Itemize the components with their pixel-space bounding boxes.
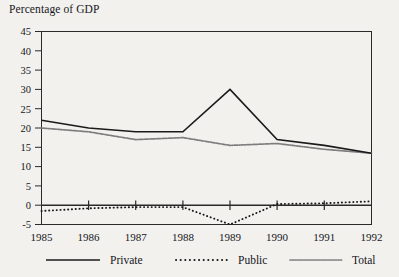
y-tick-label: 45 (21, 26, 32, 37)
x-tick-label: 1986 (78, 231, 101, 243)
chart-plot-area: 45 40 35 30 25 20 15 10 5 0 -5 (0, 0, 399, 277)
y-tick-label: 40 (21, 46, 32, 57)
legend-item-label: Public (238, 254, 267, 266)
x-tick-label: 1985 (31, 231, 54, 243)
y-tick-label: 10 (21, 161, 32, 172)
chart-svg: 45 40 35 30 25 20 15 10 5 0 -5 (0, 0, 399, 277)
y-tick-label: 25 (21, 104, 32, 115)
x-tick-label: 1987 (125, 231, 148, 243)
chart-page: Percentage of GDP 45 40 (0, 0, 399, 277)
series-line-private (42, 89, 372, 153)
legend-item-private[interactable]: Private (46, 254, 143, 266)
x-tick-label: 1991 (313, 231, 335, 243)
series-line-total (42, 128, 372, 153)
x-tick-label: 1990 (266, 231, 289, 243)
chart-legend: Private Public Total (46, 254, 375, 266)
y-tick-label: 20 (21, 123, 32, 134)
y-tick-label: 35 (21, 65, 32, 76)
x-tick-label: 1989 (219, 231, 242, 243)
x-tick-label: 1988 (172, 231, 195, 243)
y-tick-label: 15 (21, 142, 32, 153)
y-tick-label: 30 (21, 84, 32, 95)
y-axis-ticks (35, 32, 42, 225)
x-axis-tick-labels: 1985 1986 1987 1988 1989 1990 1991 1992 (31, 231, 383, 243)
x-tick-label: 1992 (361, 231, 383, 243)
y-tick-label: 0 (26, 200, 31, 211)
legend-item-public[interactable]: Public (176, 254, 267, 266)
legend-item-label: Private (110, 254, 143, 266)
y-axis-tick-labels: 45 40 35 30 25 20 15 10 5 0 -5 (21, 26, 32, 230)
y-tick-label: 5 (26, 181, 31, 192)
legend-item-label: Total (352, 254, 375, 266)
legend-item-total[interactable]: Total (290, 254, 375, 266)
y-tick-label: -5 (22, 219, 31, 230)
